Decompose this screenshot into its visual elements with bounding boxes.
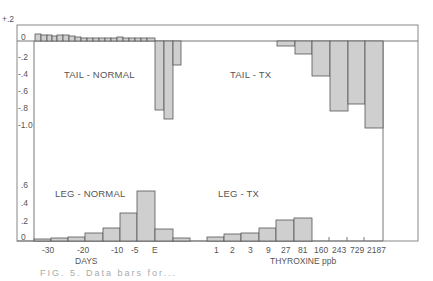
svg-text:.2: .2	[21, 216, 28, 226]
svg-text:1: 1	[214, 245, 219, 255]
svg-text:-30: -30	[42, 245, 55, 255]
tail-tx-bars	[277, 41, 383, 128]
svg-text:3: 3	[248, 245, 253, 255]
svg-text:-.8: -.8	[18, 103, 28, 113]
bottom-y-ticks: .6 .4 .2 0	[21, 180, 28, 242]
days-axis-label: DAYS	[75, 256, 98, 266]
svg-text:27: 27	[281, 245, 291, 255]
figure-caption: FIG. 5. Data bars for...	[40, 268, 177, 278]
svg-text:243: 243	[332, 245, 346, 255]
leg-tx-label: LEG - TX	[218, 188, 259, 199]
svg-text:0: 0	[21, 32, 26, 42]
thyroxine-axis-label: THYROXINE ppb	[270, 256, 336, 266]
leg-normal-label: LEG - NORMAL	[55, 188, 126, 199]
svg-text:-.6: -.6	[18, 86, 28, 96]
svg-text:2187: 2187	[367, 245, 386, 255]
svg-text:-.2: -.2	[18, 52, 28, 62]
svg-text:-5: -5	[131, 245, 139, 255]
svg-text:-10: -10	[111, 245, 124, 255]
svg-text:729: 729	[350, 245, 364, 255]
svg-text:-20: -20	[77, 245, 90, 255]
svg-text:.6: .6	[21, 180, 28, 190]
svg-text:160: 160	[314, 245, 328, 255]
svg-text:+.2: +.2	[2, 14, 14, 24]
leg-tx-bars	[207, 218, 312, 241]
svg-text:-1.0: -1.0	[18, 120, 33, 130]
svg-text:9: 9	[266, 245, 271, 255]
svg-text:2: 2	[230, 245, 235, 255]
svg-text:81: 81	[298, 245, 308, 255]
days-x-ticks: -30 -20 -10 -5 E	[42, 245, 158, 255]
svg-text:0: 0	[21, 232, 26, 242]
svg-text:.4: .4	[21, 198, 28, 208]
chart-figure: +.2 0 -.2 -.4 -.6 -.8 -1.0 TAIL - NORMAL	[0, 0, 433, 281]
tail-normal-label: TAIL - NORMAL	[64, 69, 135, 80]
svg-text:-.4: -.4	[18, 69, 28, 79]
tail-tx-label: TAIL - TX	[230, 69, 272, 80]
svg-text:E: E	[152, 245, 158, 255]
